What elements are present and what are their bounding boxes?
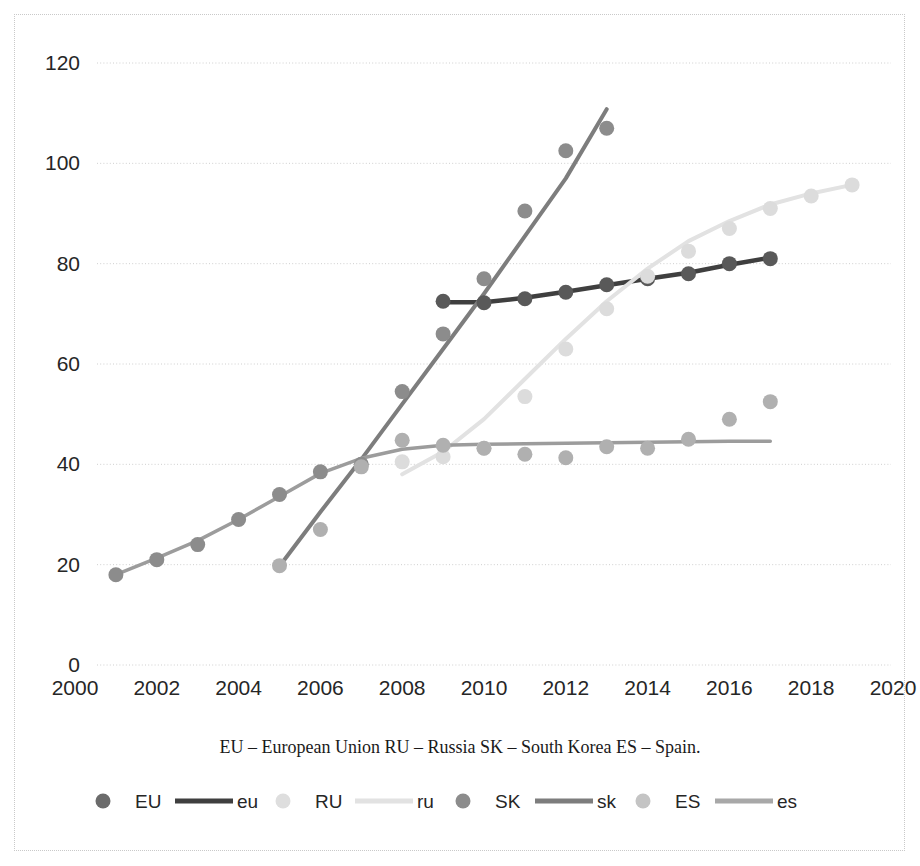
y-tick-label: 100 bbox=[45, 151, 80, 174]
caption-group: EU – European Union RU – Russia SK – Sou… bbox=[220, 737, 701, 757]
data-point bbox=[722, 256, 737, 271]
scatter-chart: 020406080100120 200020022004200620082010… bbox=[0, 0, 920, 866]
data-point bbox=[640, 269, 655, 284]
x-tick-label: 2018 bbox=[788, 676, 835, 699]
x-tick-label: 2008 bbox=[379, 676, 426, 699]
data-point bbox=[436, 294, 451, 309]
y-tick-label: 40 bbox=[57, 452, 80, 475]
data-point bbox=[517, 389, 532, 404]
y-axis-tick-labels: 020406080100120 bbox=[45, 51, 80, 676]
y-tick-label: 120 bbox=[45, 51, 80, 74]
data-point bbox=[681, 432, 696, 447]
trendlines-group bbox=[116, 109, 852, 575]
data-point bbox=[558, 285, 573, 300]
data-point bbox=[395, 454, 410, 469]
series-points-ES bbox=[272, 394, 778, 573]
x-tick-label: 2020 bbox=[870, 676, 917, 699]
data-point bbox=[477, 271, 492, 286]
trendline-ru bbox=[402, 185, 852, 474]
chart-caption: EU – European Union RU – Russia SK – Sou… bbox=[220, 737, 701, 757]
data-point bbox=[231, 512, 246, 527]
data-point bbox=[517, 291, 532, 306]
data-point bbox=[395, 384, 410, 399]
legend-line-label-ru[interactable]: ru bbox=[417, 791, 434, 812]
chart-figure: 020406080100120 200020022004200620082010… bbox=[0, 0, 920, 866]
series-points-SK bbox=[108, 121, 614, 582]
data-point bbox=[272, 558, 287, 573]
data-point bbox=[722, 412, 737, 427]
data-point bbox=[599, 121, 614, 136]
data-point bbox=[640, 441, 655, 456]
data-point bbox=[558, 450, 573, 465]
data-point bbox=[354, 459, 369, 474]
data-point bbox=[763, 251, 778, 266]
x-tick-label: 2000 bbox=[52, 676, 99, 699]
chart-legend: EUeuRUruSKskESes bbox=[96, 791, 798, 812]
data-point bbox=[517, 447, 532, 462]
y-tick-label: 20 bbox=[57, 553, 80, 576]
data-point bbox=[558, 341, 573, 356]
x-tick-label: 2016 bbox=[706, 676, 753, 699]
data-point bbox=[149, 552, 164, 567]
data-point bbox=[763, 394, 778, 409]
legend-label-ru[interactable]: RU bbox=[315, 791, 342, 812]
data-point bbox=[599, 439, 614, 454]
y-tick-label: 0 bbox=[68, 653, 80, 676]
legend-marker-es[interactable] bbox=[636, 794, 651, 809]
legend-marker-sk[interactable] bbox=[456, 794, 471, 809]
x-tick-label: 2014 bbox=[624, 676, 671, 699]
data-point bbox=[272, 487, 287, 502]
data-point bbox=[395, 433, 410, 448]
gridlines-group bbox=[97, 63, 891, 665]
legend-label-sk[interactable]: SK bbox=[495, 791, 521, 812]
data-point bbox=[681, 244, 696, 259]
data-point bbox=[722, 221, 737, 236]
data-point bbox=[436, 326, 451, 341]
data-point bbox=[313, 522, 328, 537]
data-point bbox=[108, 567, 123, 582]
legend-marker-eu[interactable] bbox=[96, 794, 111, 809]
data-point bbox=[599, 277, 614, 292]
data-point bbox=[477, 441, 492, 456]
data-point bbox=[804, 188, 819, 203]
data-point bbox=[763, 201, 778, 216]
data-points-group bbox=[108, 121, 859, 582]
data-point bbox=[845, 177, 860, 192]
data-point bbox=[436, 438, 451, 453]
x-tick-label: 2002 bbox=[133, 676, 180, 699]
x-tick-label: 2012 bbox=[542, 676, 589, 699]
x-tick-label: 2010 bbox=[461, 676, 508, 699]
data-point bbox=[558, 143, 573, 158]
legend-label-es[interactable]: ES bbox=[675, 791, 700, 812]
legend-label-eu[interactable]: EU bbox=[135, 791, 161, 812]
data-point bbox=[477, 295, 492, 310]
x-axis-tick-labels: 2000200220042006200820102012201420162018… bbox=[52, 676, 917, 699]
y-tick-label: 60 bbox=[57, 352, 80, 375]
y-tick-label: 80 bbox=[57, 252, 80, 275]
legend-line-label-es[interactable]: es bbox=[777, 791, 797, 812]
data-point bbox=[599, 301, 614, 316]
data-point bbox=[313, 464, 328, 479]
legend-line-label-sk[interactable]: sk bbox=[597, 791, 617, 812]
x-tick-label: 2004 bbox=[215, 676, 262, 699]
data-point bbox=[681, 266, 696, 281]
legend-marker-ru[interactable] bbox=[276, 794, 291, 809]
data-point bbox=[517, 203, 532, 218]
legend-line-label-eu[interactable]: eu bbox=[237, 791, 258, 812]
x-tick-label: 2006 bbox=[297, 676, 344, 699]
data-point bbox=[190, 537, 205, 552]
